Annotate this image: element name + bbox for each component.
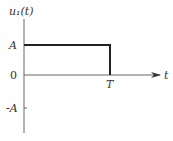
tick-label-zero: 0 bbox=[10, 69, 17, 82]
tick-label-neg-a: -A bbox=[6, 102, 18, 115]
signal-diagram: u₁(t) A 0 -A T t bbox=[0, 0, 173, 141]
y-axis-label: u₁(t) bbox=[9, 5, 34, 18]
pulse-signal bbox=[24, 45, 110, 75]
tick-label-a: A bbox=[8, 39, 17, 52]
x-axis-label: t bbox=[164, 69, 169, 82]
tick-label-t: T bbox=[106, 78, 115, 91]
